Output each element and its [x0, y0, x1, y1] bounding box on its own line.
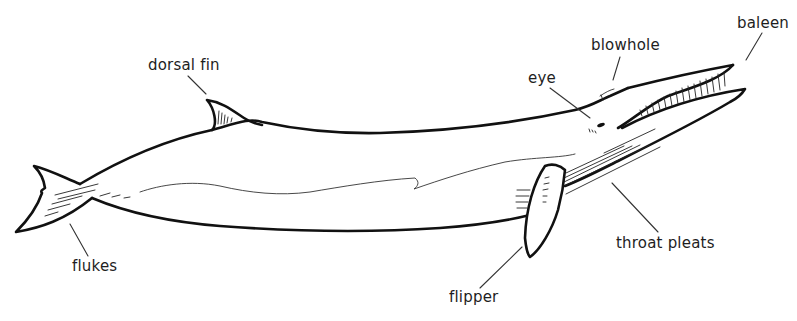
flipper — [525, 165, 565, 257]
upper-jaw-tip — [618, 65, 733, 128]
whale-diagram — [0, 0, 797, 321]
eye-mark — [597, 122, 606, 128]
belly-outline — [92, 198, 530, 231]
label-dorsal-fin: dorsal fin — [148, 58, 220, 73]
label-blowhole: blowhole — [591, 38, 660, 53]
label-flipper: flipper — [449, 290, 498, 305]
whale-body — [80, 65, 745, 231]
flukes — [16, 166, 92, 232]
leader-blowhole — [613, 57, 620, 80]
leader-dorsal-fin — [188, 76, 206, 94]
eye-hatching — [589, 129, 596, 133]
leader-throat-pleats — [612, 183, 658, 232]
leader-baleen — [746, 33, 762, 60]
flank-shading-line — [140, 154, 575, 194]
leader-flipper — [480, 247, 522, 288]
label-flukes: flukes — [72, 259, 117, 274]
throat-pleats — [560, 129, 660, 194]
label-throat-pleats: throat pleats — [616, 236, 715, 251]
dorsal-fin-hatching — [218, 111, 232, 124]
label-baleen: baleen — [737, 16, 789, 31]
leader-flukes — [70, 224, 88, 256]
label-eye: eye — [528, 71, 556, 86]
dorsal-fin — [207, 100, 262, 130]
